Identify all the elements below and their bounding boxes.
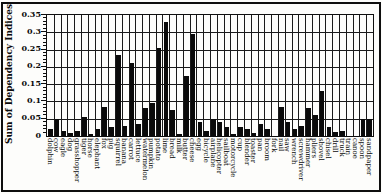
bar-nail (279, 107, 284, 136)
x-gridline (217, 15, 218, 136)
bar-pan (259, 124, 264, 136)
y-minor-tick (43, 42, 46, 43)
x-gridline (176, 15, 177, 136)
y-minor-tick (43, 24, 46, 25)
x-label-lettuce: lettuce (134, 138, 141, 163)
y-major-tick (41, 31, 46, 32)
bar-bicycle (204, 131, 209, 136)
y-minor-tick (43, 45, 46, 46)
x-gridline (108, 15, 109, 136)
x-gridline (332, 15, 333, 136)
bar-screwdriver (299, 126, 304, 136)
bar-dog (68, 133, 73, 136)
bar-blender (245, 129, 250, 136)
x-label-lime: lime (161, 138, 168, 153)
bar-cow (55, 119, 60, 136)
figure: Sum of Dependency Indices 00.050.10.150.… (0, 0, 382, 194)
bar-butter (184, 76, 189, 137)
y-major-tick (41, 83, 46, 84)
x-label-bicycle: bicycle (202, 138, 209, 163)
bar-lettuce (136, 124, 141, 136)
x-gridline (95, 15, 96, 136)
plot-area (46, 14, 374, 137)
y-minor-tick (43, 94, 46, 95)
bar-spoon (361, 119, 366, 136)
bar-elephant (96, 129, 101, 136)
bar-shovel (320, 91, 325, 136)
x-label-screwdriver: screwdriver (297, 138, 304, 181)
bar-watermelon (143, 108, 148, 136)
x-gridline (258, 15, 259, 136)
x-gridline (271, 15, 272, 136)
bar-dolphin (48, 129, 53, 136)
y-minor-tick (43, 17, 46, 18)
y-tick-label: 0.2 (0, 61, 41, 70)
x-gridline (230, 15, 231, 136)
x-label-drill: drill (331, 138, 338, 153)
y-tick-label: 0.05 (0, 113, 41, 122)
y-minor-tick (43, 132, 46, 133)
bar-drill (333, 132, 338, 136)
y-minor-tick (43, 107, 46, 108)
bar-broom (265, 129, 270, 136)
y-minor-tick (43, 21, 46, 22)
x-label-sandpaper: sandpaper (365, 138, 372, 175)
y-minor-tick (43, 104, 46, 105)
bar-cheese (191, 34, 196, 136)
y-minor-tick (43, 76, 46, 77)
x-gridline (224, 15, 225, 136)
y-minor-tick (43, 69, 46, 70)
bar-wrench (293, 129, 298, 136)
x-gridline (285, 15, 286, 136)
bar-chisel (327, 127, 332, 136)
bar-pig (109, 127, 114, 136)
x-label-egg: egg (195, 138, 202, 151)
bar-helicopter (218, 122, 223, 136)
y-minor-tick (43, 90, 46, 91)
x-gridline (325, 15, 326, 136)
y-minor-tick (43, 87, 46, 88)
x-gridline (237, 15, 238, 136)
y-minor-tick (43, 59, 46, 60)
bar-tiger (82, 117, 87, 136)
x-gridline (135, 15, 136, 136)
bar-lime (164, 22, 169, 136)
x-label-pig: pig (107, 138, 114, 149)
y-minor-tick (43, 128, 46, 129)
x-gridline (244, 15, 245, 136)
x-label-broom: broom (263, 138, 270, 161)
x-gridline (339, 15, 340, 136)
x-gridline (264, 15, 265, 136)
y-minor-tick (43, 111, 46, 112)
x-gridline (67, 15, 68, 136)
x-gridline (122, 15, 123, 136)
x-gridline (346, 15, 347, 136)
y-major-tick (41, 49, 46, 50)
x-label-motorcycle: motorcycle (229, 138, 236, 177)
y-tick-label: 0.3 (0, 27, 41, 36)
y-minor-tick (43, 55, 46, 56)
x-label-fork: fork (270, 138, 277, 152)
bar-egg (198, 122, 203, 136)
y-major-tick (41, 14, 46, 15)
x-gridline (196, 15, 197, 136)
bar-eagle (62, 131, 67, 136)
bar-motorcycle (231, 134, 236, 136)
x-gridline (74, 15, 75, 136)
y-tick-label: 0.25 (0, 44, 41, 53)
bar-hammer (306, 108, 311, 136)
bar-carrot (130, 63, 135, 136)
x-label-spoon: spoon (358, 138, 365, 159)
bar-pliers (313, 115, 318, 136)
bar-saw (286, 122, 291, 136)
y-tick-label: 0 (0, 131, 41, 140)
y-minor-tick (43, 125, 46, 126)
x-label-cup: cup (236, 138, 243, 151)
x-gridline (61, 15, 62, 136)
y-tick-label: 0.15 (0, 79, 41, 88)
x-gridline (298, 15, 299, 136)
bar-truck (340, 131, 345, 136)
bar-pumpkin (150, 103, 155, 136)
bar-banana (123, 126, 128, 136)
bar-grasshopper (75, 131, 80, 136)
